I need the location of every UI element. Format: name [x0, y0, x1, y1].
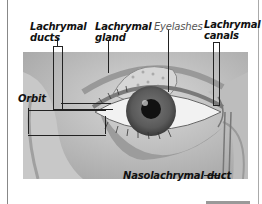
orbit-box	[28, 110, 106, 136]
label-lachrymal-ducts-line1: Lachrymal	[30, 21, 86, 32]
label-lachrymal-ducts: Lachrymal ducts	[30, 21, 86, 43]
label-nasolachrymal-duct: Nasolachrymal duct	[123, 170, 231, 181]
lachrymal-ducts-inner-horizontal	[61, 103, 111, 104]
label-lachrymal-gland-line1: Lachrymal	[95, 21, 151, 32]
label-orbit: Orbit	[18, 93, 46, 104]
label-lachrymal-canals-line1: Lachrymal	[204, 19, 260, 30]
orbit-right-leader	[105, 116, 106, 134]
label-eyelashes: Eyelashes	[154, 21, 202, 32]
eyelashes-leader	[168, 30, 169, 92]
label-lachrymal-ducts-line2: ducts	[30, 32, 86, 43]
orbit-leader	[28, 108, 29, 134]
label-lachrymal-canals: Lachrymal canals	[204, 19, 260, 41]
lachrymal-canals-box	[213, 42, 220, 106]
lachrymal-ducts-box	[53, 46, 63, 111]
bottom-edge-strip	[206, 201, 250, 204]
label-lachrymal-gland-line2: gland	[95, 32, 151, 43]
label-lachrymal-canals-line2: canals	[204, 30, 260, 41]
lachrymal-gland-leader	[108, 40, 109, 73]
label-lachrymal-gland: Lachrymal gland	[95, 21, 151, 43]
